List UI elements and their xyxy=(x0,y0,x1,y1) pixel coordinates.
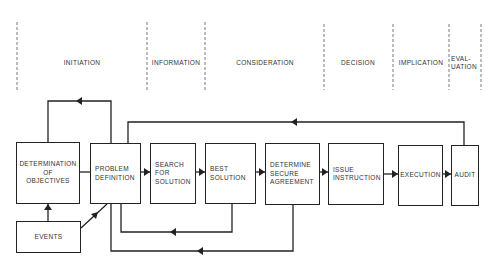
loop-agreement-to-pd xyxy=(111,204,293,251)
phase-label-information: INFORMATION xyxy=(148,59,204,67)
phase-label-decision: DECISION xyxy=(330,59,386,67)
box-issue-instruction: ISSUE INSTRUCTION xyxy=(328,143,384,205)
box-best-solution: BEST SOLUTION xyxy=(205,143,256,204)
box-label: BEST SOLUTION xyxy=(210,165,246,182)
arrow-head-icon xyxy=(44,204,52,210)
box-label: EXECUTION xyxy=(400,171,441,180)
feedback-audit-to-pd xyxy=(128,122,464,145)
arrow-head-icon xyxy=(197,247,203,255)
phase-label-consideration: CONSIDERATION xyxy=(230,59,300,67)
phase-dividers xyxy=(17,22,481,90)
box-label: PROBLEM DEFINITION xyxy=(95,165,135,182)
arrow-head-icon xyxy=(170,228,176,236)
box-problem-definition: PROBLEM DEFINITION xyxy=(90,143,141,204)
feedback-pd-to-objectives xyxy=(48,101,111,143)
box-determine-secure-agreement: DETERMINE SECURE AGREEMENT xyxy=(265,143,320,205)
decision-process-diagram: INITIATION INFORMATION CONSIDERATION DEC… xyxy=(0,0,497,271)
arrow-head-icon xyxy=(291,118,297,126)
box-audit: AUDIT xyxy=(451,145,479,206)
box-label: DETERMINE SECURE AGREEMENT xyxy=(270,161,314,187)
arrow-head-icon xyxy=(76,97,82,105)
box-determination-of-objectives: DETERMINATION OF OBJECTIVES xyxy=(16,142,80,204)
box-execution: EXECUTION xyxy=(398,145,443,206)
box-label: EVENTS xyxy=(35,233,63,242)
box-label: AUDIT xyxy=(455,171,476,180)
box-search-for-solution: SEARCH FOR SOLUTION xyxy=(150,143,196,204)
box-label: DETERMINATION OF OBJECTIVES xyxy=(19,160,76,186)
box-label: SEARCH FOR SOLUTION xyxy=(155,161,191,187)
box-events: EVENTS xyxy=(16,221,81,253)
phase-label-initiation: INITIATION xyxy=(52,59,112,67)
loop-best-solution-to-pd xyxy=(121,204,232,232)
box-label: ISSUE INSTRUCTION xyxy=(333,166,381,183)
phase-label-implication: IMPLICATION xyxy=(395,59,447,67)
phase-label-evaluation: EVAL- UATION xyxy=(451,55,481,71)
